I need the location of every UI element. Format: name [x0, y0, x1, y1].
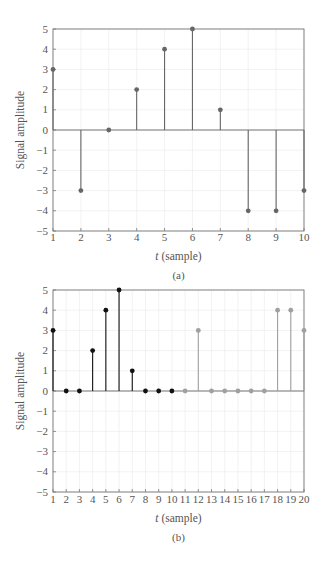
- y-tick-label: −4: [36, 204, 48, 216]
- x-tick-label: 14: [219, 493, 231, 505]
- y-tick-label: −2: [36, 425, 48, 437]
- stem-marker: [209, 389, 214, 394]
- x-tick-label: 7: [130, 493, 136, 505]
- y-tick-label: −5: [36, 225, 48, 237]
- stem-marker: [302, 328, 307, 333]
- x-tick-label: 9: [273, 231, 279, 243]
- stem-marker: [134, 87, 139, 92]
- stem-marker: [196, 328, 201, 333]
- y-axis-label: Signal amplitude: [14, 352, 27, 430]
- series-signal: [51, 27, 307, 214]
- stem-marker: [275, 308, 280, 313]
- x-tick-label: 1: [50, 231, 56, 243]
- y-tick-label: −3: [36, 445, 48, 457]
- x-tick-label: 3: [77, 493, 83, 505]
- stem-marker: [51, 328, 56, 333]
- stem-marker: [249, 389, 254, 394]
- x-tick-label: 10: [166, 493, 178, 505]
- y-tick-label: −2: [36, 164, 48, 176]
- x-tick-label: 8: [143, 493, 149, 505]
- stem-marker: [274, 208, 279, 213]
- stem-marker: [183, 389, 188, 394]
- y-tick-label: −1: [36, 405, 48, 417]
- chart-caption: (a): [172, 269, 185, 282]
- y-tick-label: −4: [36, 465, 48, 477]
- stem-marker: [78, 188, 83, 193]
- y-tick-label: 1: [43, 364, 49, 376]
- figure: 12345678910543210−1−2−3−4−5Signal amplit…: [0, 0, 326, 561]
- y-tick-label: 4: [43, 304, 49, 316]
- stem-marker: [288, 308, 293, 313]
- x-tick-label: 3: [106, 231, 112, 243]
- chart-caption: (b): [172, 531, 185, 544]
- x-tick-label: 16: [246, 493, 258, 505]
- stem-marker: [169, 389, 174, 394]
- x-tick-label: 2: [63, 493, 69, 505]
- x-tick-label: 11: [180, 493, 191, 505]
- stem-marker: [302, 188, 307, 193]
- y-tick-label: 3: [43, 63, 49, 75]
- x-tick-label: 6: [116, 493, 122, 505]
- stem-marker: [156, 389, 161, 394]
- stem-marker: [106, 128, 111, 133]
- x-axis-label: t (sample): [155, 512, 201, 525]
- x-tick-label: 1: [50, 493, 56, 505]
- x-tick-label: 20: [299, 493, 311, 505]
- stem-marker: [143, 389, 148, 394]
- x-tick-label: 10: [299, 231, 311, 243]
- x-axis-label: t (sample): [155, 250, 201, 263]
- stem-marker: [246, 208, 251, 213]
- stem-marker: [222, 389, 227, 394]
- x-tick-label: 5: [103, 493, 109, 505]
- x-tick-label: 15: [232, 493, 244, 505]
- series-first-half: [51, 288, 175, 394]
- x-tick-label: 7: [218, 231, 224, 243]
- x-tick-label: 17: [259, 493, 271, 505]
- stem-marker: [190, 27, 195, 32]
- y-tick-label: −3: [36, 184, 48, 196]
- y-tick-label: 4: [43, 43, 49, 55]
- stem-marker: [236, 389, 241, 394]
- chart-a: 12345678910543210−1−2−3−4−5Signal amplit…: [14, 23, 310, 283]
- x-tick-label: 9: [156, 493, 162, 505]
- y-tick-label: −5: [36, 486, 48, 498]
- stem-marker: [117, 288, 122, 293]
- x-tick-label: 19: [285, 493, 297, 505]
- stem-marker: [51, 67, 56, 72]
- y-tick-label: 0: [43, 385, 49, 397]
- y-tick-label: 1: [43, 103, 49, 115]
- stem-marker: [64, 389, 69, 394]
- x-tick-label: 13: [206, 493, 218, 505]
- chart-b: 1234567891011121314151617181920543210−1−…: [14, 284, 310, 545]
- x-tick-label: 5: [162, 231, 168, 243]
- y-tick-label: 2: [43, 83, 49, 95]
- x-tick-label: 18: [272, 493, 284, 505]
- stem-marker: [218, 107, 223, 112]
- y-tick-label: −1: [36, 144, 48, 156]
- y-tick-label: 5: [43, 23, 49, 35]
- stem-marker: [77, 389, 82, 394]
- stem-marker: [90, 348, 95, 353]
- x-tick-label: 4: [90, 493, 96, 505]
- y-tick-label: 2: [43, 344, 49, 356]
- stem-marker: [162, 47, 167, 52]
- x-tick-label: 8: [245, 231, 251, 243]
- x-tick-label: 4: [134, 231, 140, 243]
- x-tick-label: 2: [78, 231, 84, 243]
- stem-marker: [103, 308, 108, 313]
- x-tick-label: 12: [193, 493, 204, 505]
- y-tick-label: 3: [43, 324, 49, 336]
- y-axis-label: Signal amplitude: [14, 91, 27, 169]
- y-tick-label: 5: [43, 284, 49, 296]
- x-tick-label: 6: [190, 231, 196, 243]
- stem-marker: [130, 368, 135, 373]
- stem-marker: [262, 389, 267, 394]
- y-tick-label: 0: [43, 124, 49, 136]
